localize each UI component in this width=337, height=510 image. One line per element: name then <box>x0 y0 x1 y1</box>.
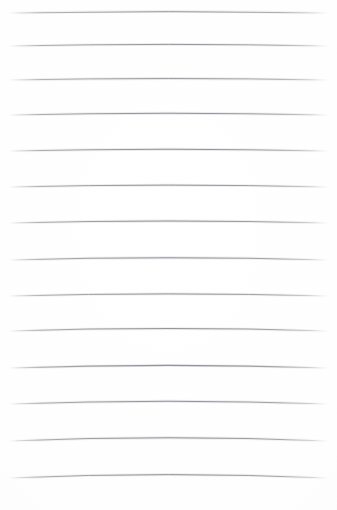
lined-paper-page <box>0 0 337 510</box>
writing-area[interactable] <box>9 13 328 483</box>
